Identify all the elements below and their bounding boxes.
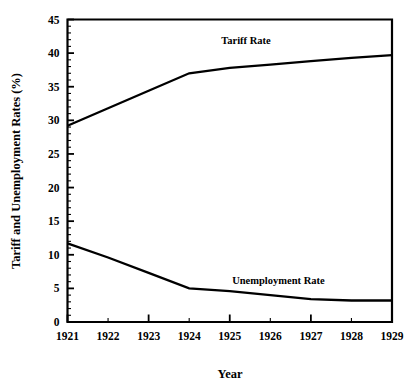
x-tick-label-1925: 1925 [218, 330, 241, 342]
x-tick-label-1924: 1924 [178, 330, 201, 342]
y-tick-label-25: 25 [48, 148, 60, 160]
y-tick-label-5: 5 [54, 282, 60, 294]
y-tick-label-45: 45 [48, 14, 60, 26]
x-tick-label-1923: 1923 [137, 330, 160, 342]
x-tick-label-1928: 1928 [340, 330, 363, 342]
x-tick-label-1927: 1927 [299, 330, 322, 342]
y-axis-title: Tariff and Unemployment Rates (%) [9, 73, 23, 269]
x-tick-label-1926: 1926 [259, 330, 282, 342]
y-tick-label-20: 20 [48, 182, 60, 194]
x-tick-label-1922: 1922 [97, 330, 120, 342]
tariff-rate-label: Tariff Rate [221, 35, 271, 46]
y-tick-label-35: 35 [48, 81, 60, 93]
chart-figure: 45 40 35 30 25 20 15 10 5 0 1921 1922 19… [0, 0, 413, 386]
y-tick-label-30: 30 [48, 114, 60, 126]
line-chart: 45 40 35 30 25 20 15 10 5 0 1921 1922 19… [0, 0, 413, 386]
y-tick-label-0: 0 [54, 316, 60, 328]
y-tick-label-15: 15 [48, 215, 60, 227]
x-axis-tick-labels: 1921 1922 1923 1924 1925 1926 1927 1928 … [56, 330, 404, 342]
x-axis-title: Year [218, 367, 243, 381]
x-tick-label-1929: 1929 [381, 330, 404, 342]
y-tick-label-40: 40 [48, 47, 60, 59]
y-tick-label-10: 10 [48, 249, 60, 261]
unemployment-rate-label: Unemployment Rate [232, 275, 325, 286]
x-tick-label-1921: 1921 [56, 330, 79, 342]
